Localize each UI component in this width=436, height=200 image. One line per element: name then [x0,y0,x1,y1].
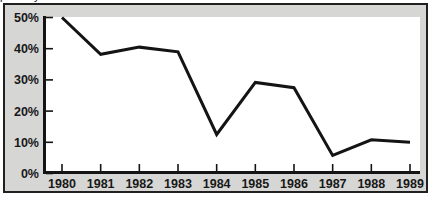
plot-area-background [43,17,420,174]
y-tick-label: 20% [14,105,39,119]
x-tick-label: 1981 [87,177,115,191]
chart-figure: partially cut-off line of text above cha… [0,0,436,200]
line-chart-plot: 0%10%20%30%40%50% 1980198119821983198419… [0,0,436,200]
y-tick-label: 10% [14,136,39,150]
x-tick-label: 1982 [125,177,153,191]
x-tick-label: 1980 [48,177,76,191]
x-tick-label: 1985 [241,177,269,191]
y-tick-label: 30% [14,73,39,87]
y-tick-label: 40% [14,42,39,56]
x-tick-label: 1987 [319,177,347,191]
x-tick-label: 1986 [280,177,308,191]
x-tick-label: 1988 [357,177,385,191]
y-tick-label: 0% [21,167,39,181]
x-tick-label: 1983 [164,177,192,191]
x-tick-label: 1989 [396,177,424,191]
x-tick-label: 1984 [203,177,231,191]
y-tick-label: 50% [14,11,39,25]
